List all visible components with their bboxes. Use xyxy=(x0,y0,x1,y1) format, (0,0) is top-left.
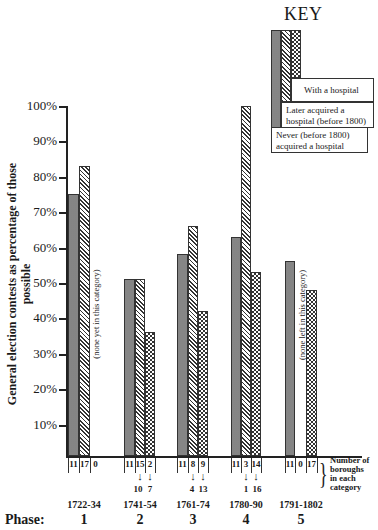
phase-number: 3 xyxy=(178,512,208,528)
number-of-boroughs-label: Number of boroughs in each category xyxy=(330,456,369,492)
bar-phase4-never xyxy=(251,272,261,456)
count-phase1-later: 17 xyxy=(79,459,90,470)
phase-number: 1 xyxy=(69,512,99,528)
count-phase2-with: 11 xyxy=(124,459,135,470)
count-phase1-never: 0 xyxy=(90,459,101,470)
y-tick-label: 10% xyxy=(3,418,57,432)
legend-swatch-later xyxy=(281,30,291,102)
move-phase4-never: 16 xyxy=(251,484,263,494)
count-phase1-with: 11 xyxy=(68,459,79,470)
phase-axis-label: Phase: xyxy=(5,512,45,528)
bar-phase3-with xyxy=(177,254,188,456)
legend-item-with: With a hospital xyxy=(291,78,374,102)
count-divider xyxy=(261,458,262,473)
count-phase2-never: 2 xyxy=(145,459,155,470)
count-phase3-never: 9 xyxy=(198,459,208,470)
bar-phase2-with xyxy=(124,279,135,456)
count-divider xyxy=(317,458,318,473)
period-label: 1722-34 xyxy=(54,499,114,510)
y-tick xyxy=(59,318,67,320)
legend-title: KEY xyxy=(284,4,323,25)
phase-number: 4 xyxy=(231,512,261,528)
count-divider xyxy=(155,458,156,473)
phase-number: 5 xyxy=(286,512,316,528)
y-tick-label: 50% xyxy=(3,276,57,290)
period-label: 1780-90 xyxy=(216,499,276,510)
y-tick xyxy=(59,106,67,108)
y-tick xyxy=(59,354,67,356)
period-label: 1761-74 xyxy=(163,499,223,510)
y-tick-label: 40% xyxy=(3,311,57,325)
count-phase4-with: 11 xyxy=(231,459,241,470)
y-tick xyxy=(59,141,67,143)
bar-phase1-later xyxy=(79,166,90,456)
phase-number: 2 xyxy=(125,512,155,528)
bar-phase4-with xyxy=(231,237,241,456)
y-tick xyxy=(59,389,67,391)
y-tick xyxy=(59,425,67,427)
legend-label-with: With a hospital xyxy=(304,85,359,95)
move-phase2-never: 7 xyxy=(144,484,156,494)
legend-swatch-with xyxy=(271,30,281,128)
count-phase5-later: 0 xyxy=(295,459,306,470)
bar-phase2-never xyxy=(145,332,155,456)
count-divider xyxy=(208,458,209,473)
y-tick-label: 70% xyxy=(3,205,57,219)
bar-phase3-later xyxy=(188,226,198,456)
period-label: 1791-1802 xyxy=(271,499,331,510)
y-tick-label: 20% xyxy=(3,382,57,396)
legend-item-never: Never (before 1800) acquired a hospital xyxy=(271,127,368,153)
move-phase2-later: 10 xyxy=(132,484,144,494)
note-none-left: (none left in this category) xyxy=(297,255,307,375)
y-tick xyxy=(59,177,67,179)
move-phase3-never: 13 xyxy=(197,484,209,494)
y-tick xyxy=(59,248,67,250)
bar-phase5-with xyxy=(285,261,295,456)
count-phase4-later: 3 xyxy=(241,459,251,470)
count-phase5-never: 17 xyxy=(306,459,317,470)
bar-phase2-later xyxy=(135,279,145,456)
count-phase3-later: 8 xyxy=(188,459,198,470)
arrow-down-icon: ↓ xyxy=(198,471,208,482)
arrow-down-icon: ↓ xyxy=(251,471,261,482)
count-phase5-with: 11 xyxy=(285,459,295,470)
y-tick-label: 100% xyxy=(3,99,57,113)
legend-label-never: Never (before 1800) acquired a hospital xyxy=(276,130,349,151)
label-line: category xyxy=(330,483,369,492)
legend-item-later: Later acquired a hospital (before 1800) xyxy=(281,102,374,128)
bar-phase4-later xyxy=(241,106,251,456)
bar-phase3-never xyxy=(198,311,208,456)
arrow-down-icon: ↓ xyxy=(241,471,251,482)
brace-icon: } xyxy=(319,458,328,488)
legend-swatch-never xyxy=(291,30,301,78)
arrow-down-icon: ↓ xyxy=(188,471,198,482)
arrow-down-icon: ↓ xyxy=(145,471,155,482)
y-tick-label: 30% xyxy=(3,347,57,361)
y-tick xyxy=(59,212,67,214)
count-phase4-never: 14 xyxy=(251,459,261,470)
period-label: 1741-54 xyxy=(110,499,170,510)
bar-phase1-with xyxy=(68,194,79,456)
note-none-yet: (none yet in this category) xyxy=(91,254,101,374)
bar-phase5-never xyxy=(306,290,317,456)
y-tick-label: 90% xyxy=(3,134,57,148)
count-phase3-with: 11 xyxy=(177,459,188,470)
y-tick-label: 60% xyxy=(3,241,57,255)
legend-label-later: Later acquired a hospital (before 1800) xyxy=(286,105,366,126)
y-tick xyxy=(59,283,67,285)
count-phase2-later: 15 xyxy=(135,459,145,470)
y-tick-label: 80% xyxy=(3,170,57,184)
arrow-down-icon: ↓ xyxy=(135,471,145,482)
